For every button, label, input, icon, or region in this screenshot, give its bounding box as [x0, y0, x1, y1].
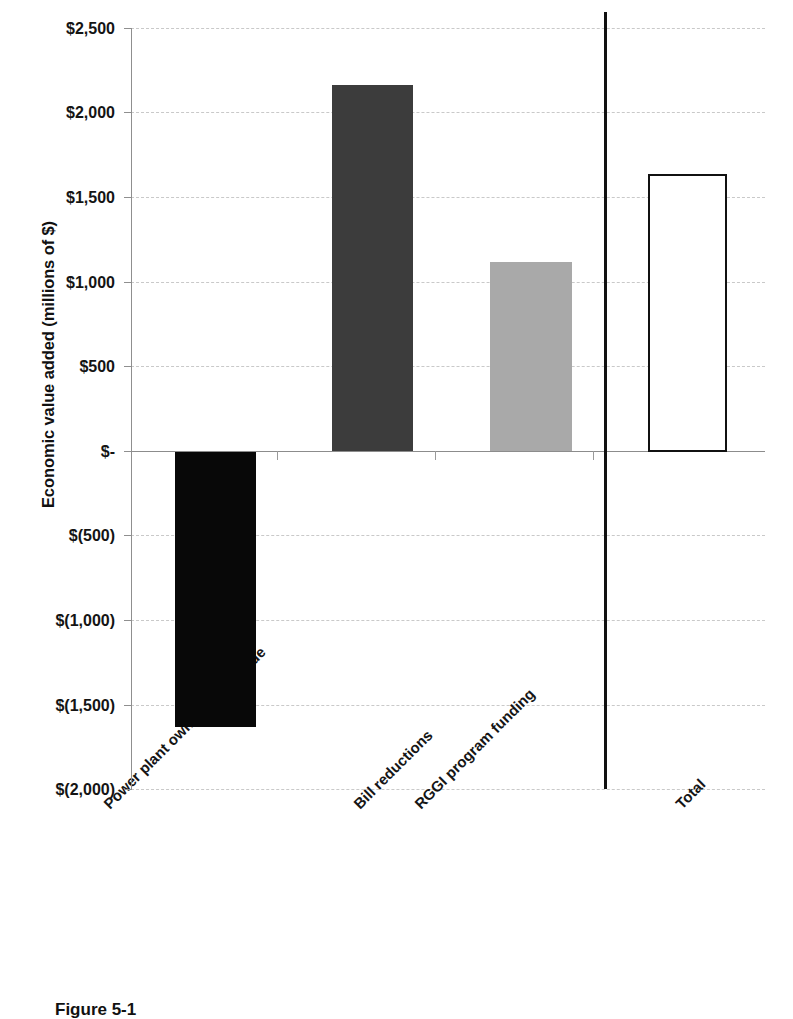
y-tick-2500: $2,500 — [124, 28, 132, 29]
y-tick-label-neg2000: $(2,000) — [55, 781, 115, 799]
y-tick-1500: $1,500 — [124, 197, 132, 198]
y-tick-500: $500 — [124, 366, 132, 367]
bar-bill-reductions[interactable] — [332, 85, 413, 451]
x-tick-2 — [435, 451, 436, 460]
y-tick-neg1000: $(1,000) — [124, 620, 132, 621]
y-tick-label-neg500: $(500) — [69, 527, 115, 545]
y-tick-1000: $1,000 — [124, 282, 132, 283]
y-tick-label-500: $500 — [79, 358, 115, 376]
y-tick-label-1000: $1,000 — [66, 274, 115, 292]
y-tick-zero: $- — [124, 451, 132, 452]
y-tick-label-neg1500: $(1,500) — [55, 697, 115, 715]
x-tick-3 — [593, 451, 594, 460]
y-axis-spine — [131, 28, 132, 789]
x-tick-1 — [277, 451, 278, 460]
figure-5-1: Economic value added (millions of $) $2,… — [0, 0, 793, 1019]
y-tick-label-2000: $2,000 — [66, 104, 115, 122]
bar-rggi-program-funding[interactable] — [490, 262, 572, 451]
y-axis-title: Economic value added (millions of $) — [39, 150, 58, 580]
gridline-2500 — [131, 28, 765, 29]
bar-total[interactable] — [648, 174, 727, 452]
y-tick-neg1500: $(1,500) — [124, 705, 132, 706]
y-tick-label-neg1000: $(1,000) — [55, 612, 115, 630]
total-separator-line — [604, 12, 607, 789]
bar-power-plant-owner-net-revenue[interactable] — [175, 451, 256, 727]
y-tick-label-1500: $1,500 — [66, 189, 115, 207]
gridline-neg2000 — [131, 789, 765, 790]
gridline-2000 — [131, 112, 765, 113]
y-tick-neg2000: $(2,000) — [124, 789, 132, 790]
y-tick-label-zero: $- — [101, 443, 115, 461]
y-tick-neg500: $(500) — [124, 535, 132, 536]
y-tick-label-2500: $2,500 — [66, 20, 115, 38]
y-tick-2000: $2,000 — [124, 112, 132, 113]
figure-caption: Figure 5-1 — [55, 1000, 136, 1019]
plot-area: $2,500 $2,000 $1,500 $1,000 $500 $- $(50… — [131, 28, 765, 789]
